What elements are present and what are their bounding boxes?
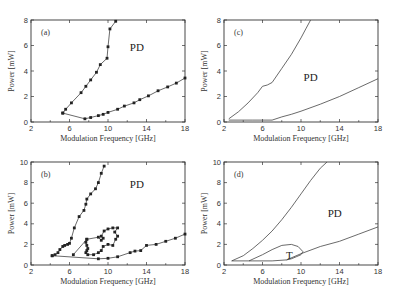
y-tick-label: 2 (217, 240, 221, 249)
y-tick-label: 10 (20, 158, 28, 167)
series-inner-loop (73, 228, 117, 255)
region-label-pd: PD (130, 178, 144, 190)
data-point (116, 235, 119, 238)
x-tick-label: 10 (104, 267, 112, 276)
data-point (94, 187, 97, 190)
y-tick-label: 4 (24, 67, 28, 76)
y-tick-label: 2 (217, 92, 221, 101)
data-point (57, 251, 60, 254)
data-point (84, 117, 87, 120)
data-point (85, 244, 88, 247)
x-tick-label: 2 (29, 267, 33, 276)
x-tick-label: 10 (297, 124, 305, 133)
data-point (166, 86, 169, 89)
data-point (107, 228, 110, 231)
data-point (164, 240, 167, 243)
data-point (123, 105, 126, 108)
data-point (109, 28, 112, 31)
data-point (102, 113, 105, 116)
data-point (111, 227, 114, 230)
data-point (61, 112, 64, 115)
chart-panel-c: 2610141802468Modulation Frequency [GHz]P… (200, 16, 382, 143)
data-point (68, 242, 71, 245)
y-tick-label: 10 (213, 158, 221, 167)
data-point (100, 249, 103, 252)
data-point (134, 250, 137, 253)
series-lower-boundary (63, 78, 185, 119)
y-axis-label: Power [mW] (7, 192, 16, 234)
region-label-pd: PD (328, 207, 342, 219)
data-point (51, 254, 54, 257)
x-tick-label: 10 (104, 124, 112, 133)
data-point (95, 71, 98, 74)
figure: 2610141802468Modulation Frequency [GHz]P… (0, 0, 393, 296)
data-point (89, 116, 92, 119)
panel-label: (d) (234, 170, 244, 179)
data-point (129, 251, 132, 254)
data-point (113, 231, 116, 234)
x-tick-label: 2 (222, 267, 226, 276)
y-tick-label: 8 (24, 178, 28, 187)
chart-panel-d: 261014180246810Modulation Frequency [GHz… (200, 158, 382, 286)
y-tick-label: 0 (24, 118, 28, 127)
series-upper-boundary (63, 21, 116, 113)
y-tick-label: 0 (217, 118, 221, 127)
data-point (114, 238, 117, 241)
data-point (139, 249, 142, 252)
y-tick-label: 8 (217, 16, 221, 25)
data-point (106, 57, 109, 60)
data-point (116, 108, 119, 111)
x-axis-label: Modulation Frequency [GHz] (253, 134, 349, 143)
x-tick-label: 10 (297, 267, 305, 276)
y-axis-label: Power [mW] (7, 50, 16, 92)
data-point (107, 257, 110, 260)
x-axis-label: Modulation Frequency [GHz] (253, 277, 349, 286)
data-point (85, 238, 88, 241)
data-point (84, 203, 87, 206)
data-point (107, 111, 110, 114)
x-tick-label: 14 (335, 267, 343, 276)
data-point (83, 209, 86, 212)
region-label-pd: PD (304, 71, 318, 83)
x-tick-label: 6 (67, 267, 71, 276)
data-point (100, 239, 103, 242)
x-tick-label: 14 (142, 267, 150, 276)
data-point (97, 181, 100, 184)
plot-frame (31, 20, 185, 122)
x-tick-label: 6 (260, 124, 264, 133)
x-tick-label: 6 (260, 267, 264, 276)
data-point (147, 94, 150, 97)
data-point (133, 101, 136, 104)
data-point (58, 248, 61, 251)
x-tick-label: 6 (67, 124, 71, 133)
data-point (100, 172, 103, 175)
region-label-pd: PD (130, 41, 144, 53)
data-point (78, 215, 81, 218)
data-point (111, 244, 114, 247)
y-tick-label: 4 (217, 67, 221, 76)
y-tick-label: 6 (24, 41, 28, 50)
y-tick-label: 6 (217, 41, 221, 50)
series-upper-boundary (52, 166, 104, 256)
data-point (184, 233, 187, 236)
data-point (116, 255, 119, 258)
panel-label: (a) (41, 28, 50, 37)
data-point (89, 79, 92, 82)
chart-panel-a: 2610141802468Modulation Frequency [GHz]P… (7, 16, 189, 143)
data-point (84, 241, 87, 244)
data-point (102, 245, 105, 248)
data-point (97, 236, 100, 239)
y-tick-label: 8 (217, 178, 221, 187)
x-tick-label: 18 (374, 267, 382, 276)
data-point (155, 243, 158, 246)
data-point (84, 85, 87, 88)
data-point (97, 251, 100, 254)
y-tick-label: 0 (24, 261, 28, 270)
x-axis-label: Modulation Frequency [GHz] (60, 277, 156, 286)
data-point (64, 108, 67, 111)
data-point (114, 20, 117, 23)
chart-panel-b: 261014180246810Modulation Frequency [GHz… (7, 158, 189, 286)
y-tick-label: 0 (217, 261, 221, 270)
panel-label: (b) (41, 170, 51, 179)
x-tick-label: 14 (142, 124, 150, 133)
